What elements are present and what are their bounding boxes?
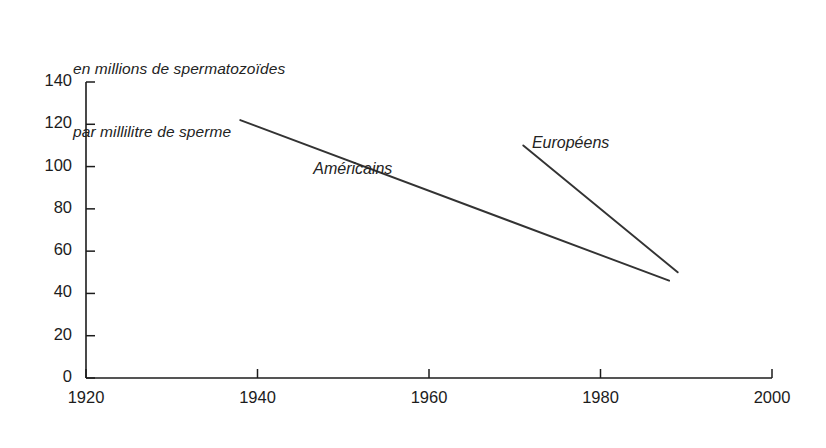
x-tick-label: 2000 xyxy=(737,388,807,407)
x-tick-label: 1920 xyxy=(51,388,121,407)
axes xyxy=(86,82,772,378)
data-series xyxy=(240,120,677,281)
series-line xyxy=(523,145,677,272)
y-tick-label: 100 xyxy=(26,156,72,175)
y-tick-label: 80 xyxy=(26,198,72,217)
x-tick-label: 1960 xyxy=(394,388,464,407)
series-label-europens: Européens xyxy=(532,134,609,152)
y-tick-label: 140 xyxy=(26,71,72,90)
chart-page: en millions de spermatozoïdes par millil… xyxy=(0,0,826,448)
chart-plot-area xyxy=(0,0,826,448)
series-label-amricains: Américains xyxy=(313,160,392,178)
y-tick-label: 20 xyxy=(26,325,72,344)
x-tick-label: 1940 xyxy=(223,388,293,407)
y-tick-label: 0 xyxy=(26,367,72,386)
x-tick-label: 1980 xyxy=(566,388,636,407)
x-axis-ticks xyxy=(86,369,772,378)
y-tick-label: 40 xyxy=(26,282,72,301)
y-tick-label: 60 xyxy=(26,240,72,259)
y-tick-label: 120 xyxy=(26,113,72,132)
y-axis-ticks xyxy=(86,82,95,378)
